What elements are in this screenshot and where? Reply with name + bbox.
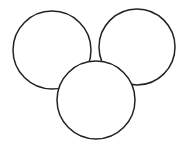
three-circles-diagram — [0, 0, 176, 148]
diagram-canvas — [0, 0, 176, 148]
circle-bottom — [57, 61, 135, 139]
